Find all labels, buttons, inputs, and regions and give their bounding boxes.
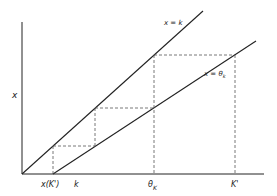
tick-label-x-of-K: x(K'): [40, 180, 59, 189]
line-x-equals-k: [22, 11, 203, 174]
tick-label-theta-K: θK: [148, 180, 158, 191]
tick-label-k: k: [74, 180, 79, 189]
diagram: x x = k x = θk x(K') k θK K': [0, 0, 277, 196]
diagram-canvas: x x = k x = θk x(K') k θK K': [0, 0, 277, 196]
line-x-equals-theta: [53, 41, 256, 174]
line-label-theta: x = θk: [203, 70, 227, 79]
line-label-identity: x = k: [163, 19, 183, 27]
y-axis-label: x: [11, 90, 18, 100]
tick-label-K-prime: K': [231, 180, 238, 189]
